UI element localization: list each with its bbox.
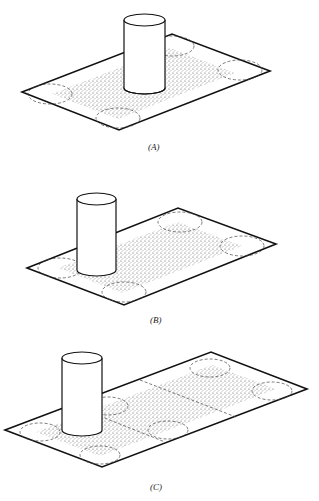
caption-c: (C)	[150, 482, 162, 492]
cylinder-b	[77, 193, 116, 276]
cylinder-c	[62, 352, 102, 436]
cylinder-a	[124, 14, 165, 94]
figure-a	[22, 14, 270, 130]
caption-b: (B)	[150, 315, 162, 325]
figure-c	[5, 352, 307, 467]
figure-canvas	[0, 0, 319, 501]
caption-a: (A)	[148, 142, 160, 152]
figure-b	[27, 193, 276, 305]
